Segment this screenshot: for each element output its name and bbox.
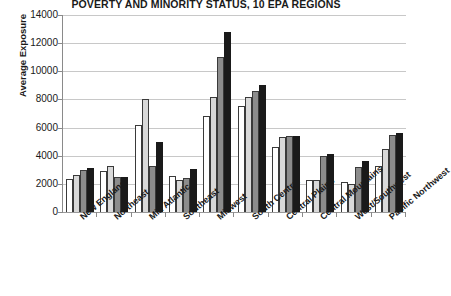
- bar[interactable]: [73, 175, 80, 212]
- bar-group: [63, 15, 97, 212]
- x-axis-tick-labels: New EnglandNortheastMid AtlanticSoutheas…: [63, 214, 406, 296]
- x-axis-tick-label: West/Southwest: [353, 214, 359, 222]
- chart-title: POVERTY AND MINORITY STATUS, 10 EPA REGI…: [0, 0, 412, 10]
- bar[interactable]: [66, 179, 73, 212]
- bar[interactable]: [217, 57, 224, 212]
- x-axis-tick-label: South Central: [250, 214, 256, 222]
- y-axis-tick-label: 0: [0, 207, 58, 217]
- y-axis-tick-label: 14000: [0, 10, 58, 20]
- bar[interactable]: [149, 166, 156, 212]
- bar[interactable]: [286, 136, 293, 212]
- y-axis-tick-label: 6000: [0, 123, 58, 133]
- y-axis-tick-label: 4000: [0, 151, 58, 161]
- x-axis-tick-label: New England: [78, 214, 84, 222]
- bar[interactable]: [259, 85, 266, 212]
- x-axis-tick-label: Pacific Northwest: [387, 214, 393, 222]
- x-axis-tick-label: Central Mountains: [318, 214, 324, 222]
- bar[interactable]: [224, 32, 231, 212]
- y-axis-tick-label: 2000: [0, 179, 58, 189]
- bar-group: [200, 15, 234, 212]
- y-axis-tick-labels: 14000120001000080006000400020000: [0, 15, 58, 212]
- bar-group: [234, 15, 268, 212]
- y-axis-tick-label: 10000: [0, 66, 58, 76]
- y-axis-tick-label: 8000: [0, 94, 58, 104]
- x-axis-tick-label: Northeast: [112, 214, 118, 222]
- x-axis-tick-label: Midwest: [215, 214, 221, 222]
- x-axis-tick-label: Southeast: [181, 214, 187, 222]
- x-axis-tick-label: Central Plains: [284, 214, 290, 222]
- bar[interactable]: [382, 149, 389, 212]
- y-axis-tick-label: 12000: [0, 38, 58, 48]
- x-axis-tick-label: Mid Atlantic: [147, 214, 153, 222]
- bar[interactable]: [389, 135, 396, 212]
- bar-group: [132, 15, 166, 212]
- bar[interactable]: [252, 91, 259, 212]
